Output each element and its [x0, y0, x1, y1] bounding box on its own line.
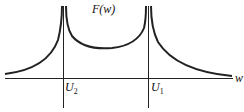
chart-title: F(w): [92, 3, 115, 15]
u1-subscript: 1: [160, 87, 164, 96]
chart: F(w) w U2 U1: [0, 0, 244, 112]
u2-symbol: U: [65, 80, 74, 94]
curve-left-tail: [5, 6, 62, 74]
curve-right-tail: [151, 6, 232, 76]
x-axis-label: w: [235, 72, 243, 84]
tick-label-u2: U2: [65, 81, 78, 98]
u1-symbol: U: [151, 80, 160, 94]
u2-subscript: 2: [74, 87, 78, 96]
plot-area: [0, 0, 244, 112]
tick-label-u1: U1: [151, 81, 164, 98]
